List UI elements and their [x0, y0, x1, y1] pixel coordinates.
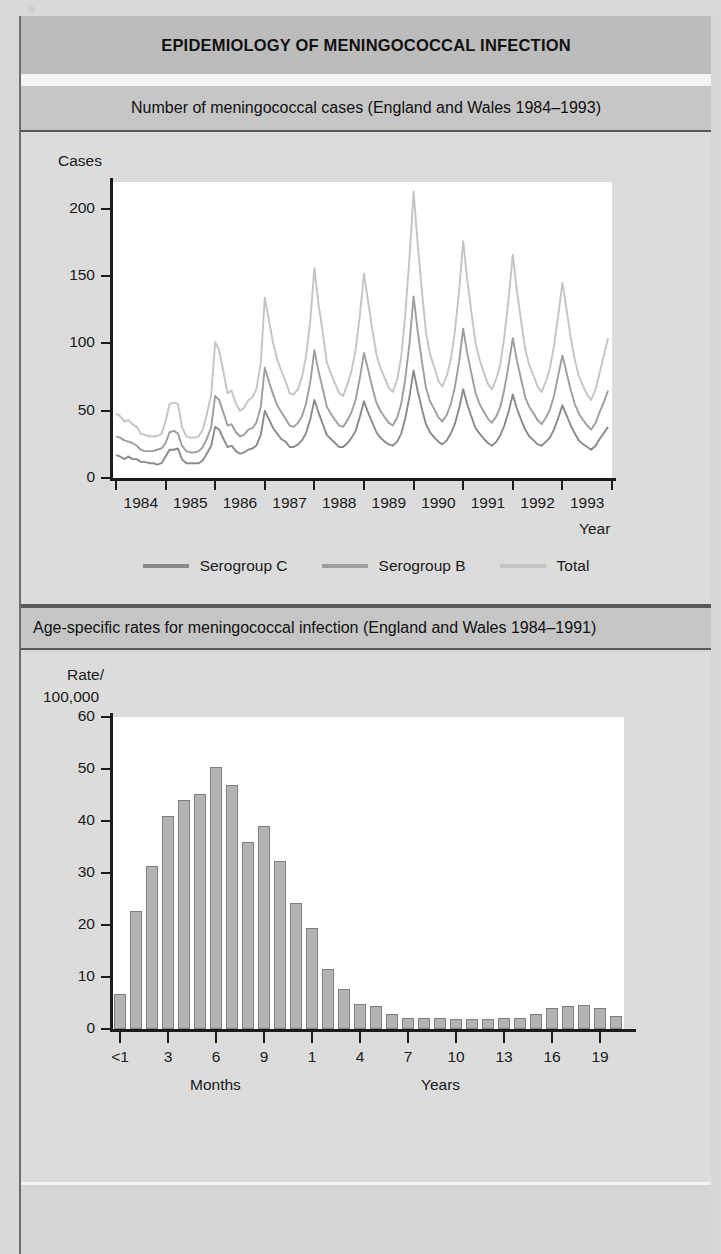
legend-label-serogroup-c: Serogroup C — [200, 557, 288, 575]
bar — [210, 767, 222, 1029]
bar-y-tick-label: 40 — [21, 811, 95, 829]
line-x-tick — [264, 481, 266, 490]
line-chart-panel: Cases 050100150200 198419851986198719881… — [21, 132, 711, 606]
line-x-tick-label: 1987 — [266, 494, 314, 512]
line-y-axis-label: Cases — [58, 152, 102, 170]
page-container: EPIDEMIOLOGY OF MENINGOCOCCAL INFECTION … — [19, 16, 719, 1254]
legend-label-total: Total — [557, 557, 590, 575]
line-y-tick — [101, 410, 110, 412]
bar-x-tick — [599, 1032, 601, 1043]
bar-x-tick — [407, 1032, 409, 1043]
bar-x-tick — [455, 1032, 457, 1043]
bar-y-axis-label-line2: 100,000 — [43, 688, 99, 706]
bar-chart-title: Age-specific rates for meningococcal inf… — [21, 606, 711, 650]
line-y-tick — [101, 208, 110, 210]
bar — [562, 1006, 574, 1029]
bar — [258, 826, 270, 1029]
line-x-tick — [462, 481, 464, 490]
bar-x-tick-label: 16 — [528, 1048, 576, 1066]
line-chart-title: Number of meningococcal cases (England a… — [21, 86, 711, 132]
bar-x-tick-label: 1 — [288, 1048, 336, 1066]
line-x-tick-label: 1984 — [117, 494, 165, 512]
line-x-tick — [413, 481, 415, 490]
bar-x-axis — [110, 1029, 636, 1032]
bar-y-axis-label-line1: Rate/ — [67, 666, 104, 684]
legend-item-total: Total — [500, 557, 590, 575]
line-y-tick-label: 50 — [21, 401, 95, 419]
line-y-tick-label: 150 — [21, 266, 95, 284]
bar — [386, 1014, 398, 1029]
bar — [450, 1019, 462, 1029]
line-y-tick — [101, 275, 110, 277]
bar — [146, 866, 158, 1029]
line-x-tick-label: 1990 — [414, 494, 462, 512]
bar — [226, 785, 238, 1029]
line-x-tick-label: 1988 — [315, 494, 363, 512]
line-series-serogroup-b — [116, 296, 608, 452]
bar — [610, 1016, 622, 1029]
line-x-tick — [214, 481, 216, 490]
line-x-tick-label: 1993 — [563, 494, 611, 512]
bar-x-tick — [359, 1032, 361, 1043]
footer-area — [21, 1185, 711, 1254]
bar-y-tick-label: 20 — [21, 915, 95, 933]
bar-y-tick — [101, 716, 110, 718]
bar — [482, 1019, 494, 1029]
line-x-tick — [611, 481, 613, 490]
bar — [194, 794, 206, 1029]
line-x-tick — [561, 481, 563, 490]
line-series-svg — [112, 182, 612, 478]
legend-item-serogroup-b: Serogroup B — [322, 557, 466, 575]
line-x-tick — [165, 481, 167, 490]
bar-group-label-years: Years — [421, 1076, 460, 1094]
bar-y-tick — [101, 872, 110, 874]
line-chart: Cases 050100150200 198419851986198719881… — [21, 132, 711, 604]
line-x-tick — [363, 481, 365, 490]
line-y-tick — [101, 477, 110, 479]
line-y-tick-label: 0 — [21, 468, 95, 486]
line-x-tick — [115, 481, 117, 490]
line-x-tick-label: 1985 — [166, 494, 214, 512]
line-y-tick-label: 200 — [21, 199, 95, 217]
bar-x-tick — [311, 1032, 313, 1043]
bar-x-tick — [215, 1032, 217, 1043]
bar — [306, 928, 318, 1029]
line-x-tick-label: 1992 — [514, 494, 562, 512]
line-y-tick-label: 100 — [21, 333, 95, 351]
line-x-tick-label: 1989 — [365, 494, 413, 512]
line-x-axis-label: Year — [579, 520, 610, 538]
legend-swatch-serogroup-b — [322, 564, 368, 568]
bar — [530, 1014, 542, 1029]
line-x-tick-label: 1986 — [216, 494, 264, 512]
bar-y-tick-label: 50 — [21, 759, 95, 777]
bar — [434, 1018, 446, 1029]
bar — [546, 1008, 558, 1029]
line-series-total — [116, 191, 608, 437]
bar-y-tick-label: 10 — [21, 967, 95, 985]
bar — [242, 842, 254, 1029]
bar-chart-panel: Rate/ 100,000 0102030405060 <13691471013… — [21, 652, 711, 1182]
line-x-tick — [512, 481, 514, 490]
line-x-tick-label: 1991 — [464, 494, 512, 512]
bar — [290, 903, 302, 1029]
bar-y-tick-label: 60 — [21, 707, 95, 725]
line-x-tick — [313, 481, 315, 490]
legend-item-serogroup-c: Serogroup C — [143, 557, 288, 575]
bar-y-axis — [110, 713, 113, 1029]
bar-x-tick-label: 6 — [192, 1048, 240, 1066]
bar-y-tick-label: 30 — [21, 863, 95, 881]
bar — [162, 816, 174, 1029]
line-y-tick — [101, 342, 110, 344]
line-chart-legend: Serogroup C Serogroup B Total — [21, 557, 711, 575]
bar-chart: Rate/ 100,000 0102030405060 <13691471013… — [21, 652, 711, 1182]
bar — [402, 1018, 414, 1029]
bar-x-tick-label: 19 — [576, 1048, 624, 1066]
bar-x-tick-label: <1 — [96, 1048, 144, 1066]
bar-x-tick — [167, 1032, 169, 1043]
bar-x-tick-label: 10 — [432, 1048, 480, 1066]
bar — [178, 800, 190, 1029]
bar-x-tick-label: 7 — [384, 1048, 432, 1066]
legend-label-serogroup-b: Serogroup B — [379, 557, 466, 575]
legend-swatch-total — [500, 564, 546, 568]
bar-series — [112, 717, 624, 1029]
